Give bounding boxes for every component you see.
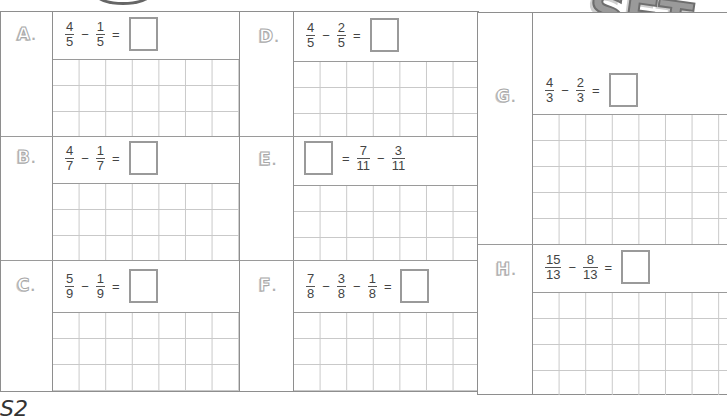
equation-row: 45 − 15 =	[53, 12, 240, 60]
minus-sign: −	[322, 279, 330, 294]
equation-row: 78 − 38 − 18 =	[294, 261, 478, 313]
equation-c: 59 − 19 =	[63, 269, 158, 303]
equation-row: 1513 − 813 =	[533, 245, 727, 293]
fraction: 17	[96, 144, 105, 173]
label-area: A.	[1, 12, 53, 136]
equation-g: 43 − 23 =	[543, 73, 638, 107]
problem-g-content: 43 − 23 =	[533, 13, 727, 244]
equals-sign: =	[592, 83, 600, 98]
fraction: 45	[306, 21, 315, 50]
working-grid-h[interactable]	[533, 293, 727, 395]
working-grid-c[interactable]	[53, 313, 240, 391]
working-grid-d[interactable]	[294, 62, 478, 136]
problem-h: H. 1513 − 813 =	[478, 244, 727, 395]
answer-box-c[interactable]	[129, 269, 158, 303]
problem-a: A. 45 − 15 =	[1, 12, 240, 136]
problem-b-content: 47 − 17 =	[53, 137, 240, 261]
fraction: 23	[576, 76, 585, 105]
answer-box-b[interactable]	[129, 141, 158, 175]
problem-letter-a: A.	[17, 24, 37, 44]
fraction: 38	[337, 272, 346, 301]
minus-sign: −	[81, 27, 89, 42]
problem-f-content: 78 − 38 − 18 =	[294, 261, 478, 391]
handwritten-scribble: S2	[0, 396, 28, 420]
equation-row: 45 − 25 =	[294, 12, 478, 62]
problem-letter-e: E.	[259, 149, 277, 169]
problem-g: G. 43 − 23 =	[478, 13, 727, 244]
column-3: G. 43 − 23 = H. 1513 −	[477, 12, 727, 395]
problem-letter-g: G.	[496, 86, 517, 106]
answer-box-d[interactable]	[370, 18, 399, 52]
label-area: C.	[1, 261, 53, 391]
problem-e-content: = 711 − 311	[294, 137, 478, 261]
equals-sign: =	[353, 28, 361, 43]
minus-sign: −	[322, 28, 330, 43]
fraction: 711	[357, 144, 371, 173]
problem-f: F. 78 − 38 − 18 =	[240, 260, 478, 391]
label-area: E.	[240, 137, 294, 261]
label-area: H.	[478, 245, 533, 395]
label-area: F.	[240, 261, 294, 391]
problem-c-content: 59 − 19 =	[53, 261, 240, 391]
working-grid-f[interactable]	[294, 313, 478, 391]
problem-letter-c: C.	[17, 275, 36, 295]
minus-sign: −	[353, 279, 361, 294]
equation-f: 78 − 38 − 18 =	[304, 269, 429, 303]
minus-sign: −	[81, 151, 89, 166]
answer-box-g[interactable]	[609, 73, 638, 107]
problem-letter-h: H.	[496, 259, 517, 279]
fraction: 43	[545, 76, 554, 105]
problem-letter-b: B.	[17, 147, 37, 167]
fraction: 813	[583, 253, 597, 282]
problem-a-content: 45 − 15 =	[53, 12, 240, 136]
minus-sign: −	[81, 279, 89, 294]
equation-row: = 711 − 311	[294, 137, 478, 186]
label-area: G.	[478, 13, 533, 244]
working-grid-g[interactable]	[533, 115, 727, 244]
equals-sign: =	[112, 279, 120, 294]
problem-d: D. 45 − 25 =	[240, 12, 478, 136]
minus-sign: −	[561, 83, 569, 98]
working-grid-b[interactable]	[53, 184, 240, 261]
answer-box-e[interactable]	[304, 141, 333, 175]
working-grid-a[interactable]	[53, 60, 240, 136]
answer-box-a[interactable]	[129, 17, 158, 51]
answer-box-h[interactable]	[621, 250, 650, 284]
fraction: 78	[306, 272, 315, 301]
equals-sign: =	[605, 260, 613, 275]
minus-sign: −	[377, 151, 385, 166]
answer-box-f[interactable]	[400, 269, 429, 303]
equation-d: 45 − 25 =	[304, 18, 399, 52]
working-grid-e[interactable]	[294, 186, 478, 261]
equation-row: 43 − 23 =	[533, 13, 727, 115]
fraction: 15	[96, 20, 105, 49]
equals-sign: =	[342, 151, 350, 166]
fraction: 47	[65, 144, 74, 173]
problem-b: B. 47 − 17 =	[1, 136, 240, 261]
column-1: A. 45 − 15 = B. 47 −	[0, 11, 241, 392]
fraction: 45	[65, 20, 74, 49]
minus-sign: −	[568, 260, 576, 275]
fraction: 1513	[545, 253, 561, 282]
equation-h: 1513 − 813 =	[543, 250, 650, 284]
problem-c: C. 59 − 19 =	[1, 260, 240, 391]
fraction: 18	[368, 272, 377, 301]
equals-sign: =	[384, 279, 392, 294]
problem-letter-d: D.	[259, 26, 280, 46]
label-area: D.	[240, 12, 294, 136]
equation-e: = 711 − 311	[304, 141, 407, 175]
fraction: 59	[65, 272, 74, 301]
header-graphic-fragment	[95, 0, 151, 5]
equation-a: 45 − 15 =	[63, 17, 158, 51]
fraction: 25	[337, 21, 346, 50]
equation-row: 59 − 19 =	[53, 261, 240, 313]
problem-e: E. = 711 − 311	[240, 136, 478, 261]
problem-letter-f: F.	[259, 275, 277, 295]
equation-row: 47 − 17 =	[53, 137, 240, 184]
equals-sign: =	[112, 27, 120, 42]
problem-d-content: 45 − 25 =	[294, 12, 478, 136]
column-2: D. 45 − 25 = E. =	[239, 11, 479, 392]
label-area: B.	[1, 137, 53, 261]
fraction: 311	[392, 144, 406, 173]
fraction: 19	[96, 272, 105, 301]
